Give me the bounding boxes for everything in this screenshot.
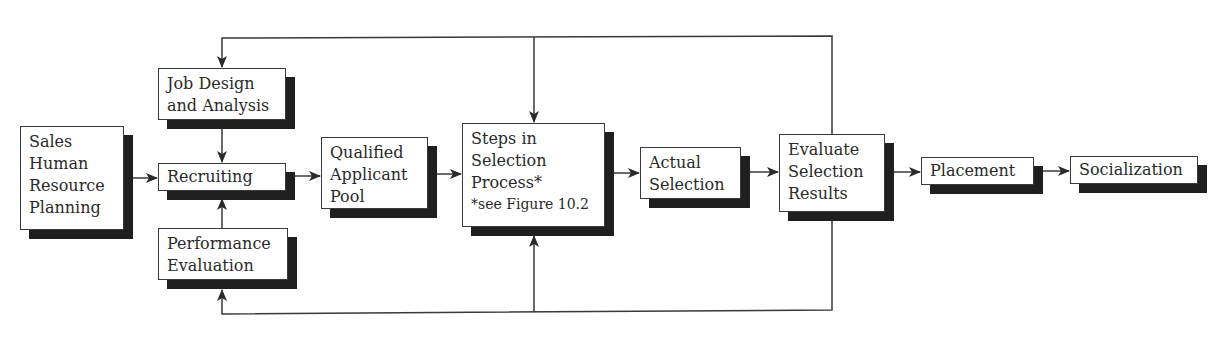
node-text: Steps in xyxy=(471,128,596,150)
node-text: Performance xyxy=(167,233,279,255)
node-text: Selection xyxy=(471,150,596,172)
node-text: Actual xyxy=(649,152,732,174)
node-applicant-pool: Qualified Applicant Pool xyxy=(321,137,428,209)
node-text: Results xyxy=(788,183,876,205)
node-actual-selection: Actual Selection xyxy=(640,147,741,199)
node-text: Sales xyxy=(29,131,115,153)
node-text: Qualified xyxy=(330,142,419,164)
node-text: Evaluation xyxy=(167,255,279,277)
node-text: Recruiting xyxy=(167,166,277,188)
node-text: Evaluate xyxy=(788,139,876,161)
node-text: and Analysis xyxy=(167,95,277,117)
node-recruiting: Recruiting xyxy=(158,163,286,191)
figure-reference-note: *see Figure 10.2 xyxy=(471,194,596,214)
node-evaluate-results: Evaluate Selection Results xyxy=(779,134,885,212)
feedback-top-to-jobdesign xyxy=(222,36,832,134)
node-performance-evaluation: Performance Evaluation xyxy=(158,228,288,280)
node-text: Placement xyxy=(930,160,1025,182)
node-text: Pool xyxy=(330,186,419,208)
node-text: Job Design xyxy=(167,73,277,95)
feedback-bottom-to-performance xyxy=(222,212,832,314)
node-text: Selection xyxy=(788,161,876,183)
node-job-design: Job Design and Analysis xyxy=(158,68,286,120)
node-text: Selection xyxy=(649,174,732,196)
node-socialization: Socialization xyxy=(1070,156,1198,184)
node-selection-steps: Steps in Selection Process* *see Figure … xyxy=(462,123,605,227)
node-text: Human xyxy=(29,153,115,175)
node-sales-hrp: Sales Human Resource Planning xyxy=(20,126,124,230)
node-text: Process* xyxy=(471,172,596,194)
node-text: Planning xyxy=(29,197,115,219)
node-placement: Placement xyxy=(921,157,1034,185)
node-text: Socialization xyxy=(1079,159,1189,181)
node-text: Resource xyxy=(29,175,115,197)
node-text: Applicant xyxy=(330,164,419,186)
